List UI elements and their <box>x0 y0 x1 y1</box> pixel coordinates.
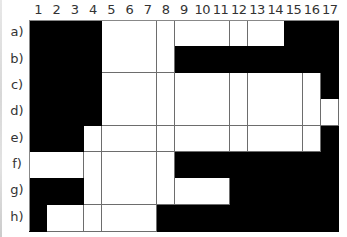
grid-cell-empty[interactable] <box>102 73 121 100</box>
grid-cell-filled[interactable] <box>47 126 66 153</box>
grid-cell-filled[interactable] <box>321 46 340 73</box>
grid-cell-empty[interactable] <box>120 20 139 47</box>
grid-cell-filled[interactable] <box>230 152 249 179</box>
grid-cell-filled[interactable] <box>157 205 176 232</box>
grid-cell-filled[interactable] <box>47 73 66 100</box>
grid-cell-filled[interactable] <box>29 73 48 100</box>
grid-cell-empty[interactable] <box>175 178 194 205</box>
grid-cell-empty[interactable] <box>266 126 285 153</box>
grid-cell-empty[interactable] <box>157 152 176 179</box>
grid-cell-filled[interactable] <box>84 99 103 126</box>
grid-cell-empty[interactable] <box>211 20 230 47</box>
grid-cell-empty[interactable] <box>175 99 194 126</box>
grid-cell-filled[interactable] <box>193 46 212 73</box>
grid-cell-empty[interactable] <box>230 73 249 100</box>
grid-cell-filled[interactable] <box>65 20 84 47</box>
grid-cell-empty[interactable] <box>193 20 212 47</box>
grid-cell-filled[interactable] <box>303 20 322 47</box>
grid-cell-empty[interactable] <box>157 20 176 47</box>
grid-cell-empty[interactable] <box>138 126 157 153</box>
grid-cell-filled[interactable] <box>303 152 322 179</box>
grid-cell-empty[interactable] <box>303 126 322 153</box>
grid-cell-empty[interactable] <box>248 126 267 153</box>
grid-cell-empty[interactable] <box>120 205 139 232</box>
grid-cell-filled[interactable] <box>321 205 340 232</box>
grid-cell-empty[interactable] <box>138 46 157 73</box>
grid-cell-empty[interactable] <box>120 126 139 153</box>
grid-cell-empty[interactable] <box>138 152 157 179</box>
grid-cell-filled[interactable] <box>29 46 48 73</box>
grid-cell-filled[interactable] <box>29 178 48 205</box>
grid-cell-filled[interactable] <box>266 205 285 232</box>
grid-cell-empty[interactable] <box>84 205 103 232</box>
grid-cell-empty[interactable] <box>29 152 48 179</box>
grid-cell-empty[interactable] <box>230 126 249 153</box>
grid-cell-empty[interactable] <box>102 205 121 232</box>
grid-cell-filled[interactable] <box>65 99 84 126</box>
grid-cell-empty[interactable] <box>102 178 121 205</box>
grid-cell-filled[interactable] <box>29 20 48 47</box>
grid-cell-empty[interactable] <box>230 20 249 47</box>
grid-cell-filled[interactable] <box>284 46 303 73</box>
grid-cell-filled[interactable] <box>248 205 267 232</box>
grid-cell-filled[interactable] <box>65 178 84 205</box>
grid-cell-empty[interactable] <box>248 73 267 100</box>
grid-cell-empty[interactable] <box>157 126 176 153</box>
grid-cell-filled[interactable] <box>193 152 212 179</box>
grid-cell-empty[interactable] <box>284 99 303 126</box>
grid-cell-filled[interactable] <box>29 99 48 126</box>
grid-cell-empty[interactable] <box>193 73 212 100</box>
grid-cell-filled[interactable] <box>47 99 66 126</box>
grid-cell-filled[interactable] <box>284 178 303 205</box>
grid-cell-filled[interactable] <box>321 152 340 179</box>
grid-cell-empty[interactable] <box>47 152 66 179</box>
grid-cell-empty[interactable] <box>157 178 176 205</box>
grid-cell-empty[interactable] <box>230 99 249 126</box>
grid-cell-filled[interactable] <box>84 73 103 100</box>
grid-cell-empty[interactable] <box>138 20 157 47</box>
grid-cell-filled[interactable] <box>84 46 103 73</box>
grid-cell-filled[interactable] <box>65 46 84 73</box>
grid-cell-empty[interactable] <box>138 99 157 126</box>
grid-cell-filled[interactable] <box>65 126 84 153</box>
grid-cell-filled[interactable] <box>47 20 66 47</box>
grid-cell-empty[interactable] <box>266 20 285 47</box>
grid-cell-filled[interactable] <box>230 205 249 232</box>
grid-cell-filled[interactable] <box>65 73 84 100</box>
grid-cell-empty[interactable] <box>175 20 194 47</box>
grid-cell-empty[interactable] <box>120 99 139 126</box>
grid-cell-empty[interactable] <box>138 205 157 232</box>
grid-cell-empty[interactable] <box>211 126 230 153</box>
grid-cell-empty[interactable] <box>175 73 194 100</box>
grid-cell-empty[interactable] <box>102 99 121 126</box>
grid-cell-filled[interactable] <box>303 205 322 232</box>
grid-cell-empty[interactable] <box>120 152 139 179</box>
grid-cell-empty[interactable] <box>138 73 157 100</box>
grid-cell-empty[interactable] <box>157 73 176 100</box>
grid-cell-filled[interactable] <box>266 152 285 179</box>
grid-cell-filled[interactable] <box>211 205 230 232</box>
grid-cell-filled[interactable] <box>248 46 267 73</box>
grid-cell-filled[interactable] <box>248 152 267 179</box>
grid-cell-filled[interactable] <box>248 178 267 205</box>
grid-cell-empty[interactable] <box>120 178 139 205</box>
grid-cell-empty[interactable] <box>138 178 157 205</box>
grid-cell-empty[interactable] <box>102 46 121 73</box>
grid-cell-empty[interactable] <box>84 126 103 153</box>
grid-cell-empty[interactable] <box>211 73 230 100</box>
grid-cell-filled[interactable] <box>266 46 285 73</box>
grid-cell-filled[interactable] <box>47 178 66 205</box>
grid-cell-empty[interactable] <box>102 126 121 153</box>
grid-cell-filled[interactable] <box>284 205 303 232</box>
grid-cell-empty[interactable] <box>65 205 84 232</box>
grid-cell-empty[interactable] <box>211 178 230 205</box>
grid-cell-empty[interactable] <box>47 205 66 232</box>
grid-cell-filled[interactable] <box>175 46 194 73</box>
grid-cell-filled[interactable] <box>321 126 340 153</box>
grid-cell-empty[interactable] <box>193 99 212 126</box>
grid-cell-filled[interactable] <box>175 205 194 232</box>
grid-cell-empty[interactable] <box>248 99 267 126</box>
grid-cell-empty[interactable] <box>211 99 230 126</box>
grid-cell-empty[interactable] <box>284 73 303 100</box>
grid-cell-empty[interactable] <box>65 152 84 179</box>
